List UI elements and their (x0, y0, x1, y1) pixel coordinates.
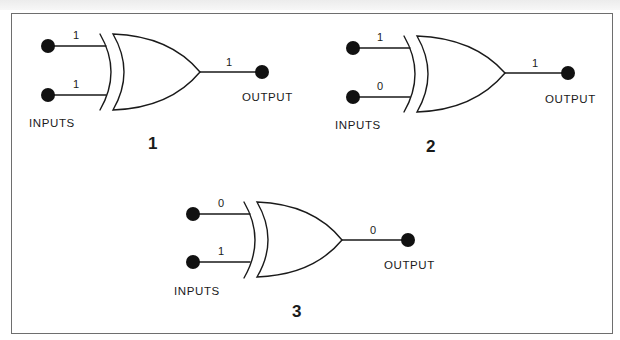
gate-2-inputs-caption: INPUTS (335, 119, 381, 131)
gate-2-output-terminal (561, 66, 575, 80)
gate-1-input-b-value: 1 (73, 78, 79, 90)
gate-1-input-a-value: 1 (73, 29, 79, 41)
xor-gate-2 (353, 36, 568, 112)
gate-3-input-b-terminal (186, 255, 200, 269)
gate-1-output-caption: OUTPUT (242, 91, 293, 103)
gate-3-output-caption: OUTPUT (384, 259, 435, 271)
gate-1-input-b-terminal (41, 88, 55, 102)
gate-3-or-body (257, 202, 342, 277)
gate-1-output-value: 1 (226, 56, 232, 68)
gate-2-input-a-value: 1 (377, 31, 383, 43)
gate-2-output-caption: OUTPUT (545, 93, 596, 105)
gate-3-input-a-value: 0 (218, 197, 224, 209)
gate-2-or-body (417, 36, 505, 112)
gate-2-number: 2 (426, 137, 435, 156)
gate-3-output-value: 0 (370, 224, 376, 236)
gate-1-or-body (113, 34, 200, 110)
xor-gate-1 (48, 34, 262, 110)
gate-3-input-b-value: 1 (218, 245, 224, 257)
gate-3-output-terminal (401, 233, 415, 247)
gate-3-input-a-terminal (186, 207, 200, 221)
xor-diagram: 1 1 1 INPUTS OUTPUT 1 1 0 1 INPUTS OUTPU… (0, 0, 620, 340)
gate-2-input-b-terminal (346, 90, 360, 104)
gate-1-input-a-terminal (41, 39, 55, 53)
xor-gate-3 (193, 202, 408, 278)
gate-1-inputs-caption: INPUTS (29, 117, 75, 129)
gate-2-input-a-terminal (346, 41, 360, 55)
gate-1-output-terminal (255, 65, 269, 79)
gate-2-output-value: 1 (532, 57, 538, 69)
gate-2-input-b-value: 0 (377, 80, 383, 92)
gate-3-inputs-caption: INPUTS (174, 285, 220, 297)
gate-3-number: 3 (292, 302, 301, 321)
gate-1-number: 1 (148, 134, 157, 153)
